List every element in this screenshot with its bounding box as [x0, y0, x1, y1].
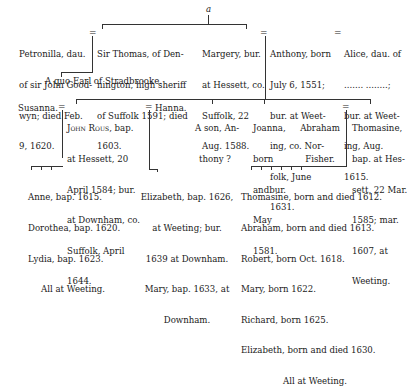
- marriage-sign: =: [260, 28, 268, 38]
- connector-line: [76, 99, 371, 100]
- child-entry: Robert, born Oct. 1618.: [241, 254, 382, 264]
- child-entry: Mary, born 1622.: [241, 284, 382, 294]
- children-note: All at Weeting.: [28, 284, 120, 294]
- child-entry: Dorothea, bap. 1620.: [28, 223, 120, 233]
- text-line: Sir Thomas, of Den-: [97, 49, 188, 59]
- text-line: thony ?: [195, 154, 235, 164]
- lineage-marker: a: [206, 4, 211, 14]
- connector-line: [346, 110, 347, 166]
- connector-line: [31, 166, 32, 170]
- child-entry: at Weeting; bur.: [130, 223, 244, 233]
- child-entry: Richard, born 1625.: [241, 315, 382, 325]
- text-line: A son, An-: [195, 123, 235, 133]
- person-son-anthony: A son, An- thony ?: [195, 103, 235, 174]
- text-line: born: [253, 154, 286, 164]
- connector-line: [208, 15, 209, 24]
- person-name: John Rous: [67, 123, 109, 133]
- child-entry: Anne, bap. 1615.: [28, 192, 120, 202]
- child-entry: 1639 at Downham.: [130, 254, 244, 264]
- connector-line: [61, 72, 93, 73]
- connector-line: [251, 166, 252, 170]
- children-note: All at Weeting.: [241, 376, 382, 386]
- child-entry: Thomasine, born and died 1612.: [241, 192, 382, 202]
- connector-line: [271, 166, 272, 170]
- person-hanna: Hanna.: [155, 103, 187, 113]
- connector-line: [291, 166, 292, 170]
- text-line: July 6, 1551;: [270, 80, 331, 90]
- child-entry: Elizabeth, born and died 1630.: [241, 345, 382, 355]
- connector-line: [41, 166, 42, 170]
- text-line: ....... ........;: [344, 80, 401, 90]
- child-entry: Downham.: [130, 315, 244, 325]
- connector-line: [102, 24, 247, 25]
- connector-line: [149, 110, 150, 170]
- connector-line: [51, 166, 52, 170]
- text-line: Petronilla, dau.: [19, 49, 92, 59]
- text-line: at Hessett, 20: [67, 154, 140, 164]
- text-line: Abraham: [299, 123, 341, 133]
- text-line: Margery, bur.: [202, 49, 265, 59]
- children-of-hanna: Elizabeth, bap. 1626, at Weeting; bur. 1…: [130, 172, 244, 335]
- text-fragment: , bap.: [109, 123, 133, 133]
- text-line: at Hessett, co.: [202, 80, 265, 90]
- text-line: Thomasine,: [352, 123, 407, 133]
- person-susanna: Susanna.: [18, 103, 58, 113]
- connector-line: [251, 166, 347, 167]
- marriage-sign: =: [334, 28, 342, 38]
- text-line: Anthony, born: [270, 49, 331, 59]
- connector-line: [301, 166, 302, 170]
- text-line: Alice, dau. of: [344, 49, 401, 59]
- text-line: Fisher.: [299, 154, 341, 164]
- connector-line: [261, 166, 262, 170]
- text-line: Joanna,: [253, 123, 286, 133]
- child-entry: Mary, bap. 1633, at: [130, 284, 244, 294]
- text-line: bap. at Hes-: [352, 154, 407, 164]
- stradbroke-note: A quo Earl of Stradbrooke.: [45, 76, 162, 86]
- connector-line: [92, 36, 93, 72]
- connector-line: [62, 110, 63, 158]
- child-entry: Abraham, born and died 1613.: [241, 223, 382, 233]
- person-abraham-fisher: Abraham Fisher.: [299, 103, 341, 174]
- children-of-susanna: Anne, bap. 1615. Dorothea, bap. 1620. Ly…: [28, 172, 120, 305]
- text-line: John Rous, bap.: [67, 123, 140, 133]
- children-of-thomasine: Thomasine, born and died 1612. Abraham, …: [241, 172, 382, 390]
- connector-line: [149, 169, 157, 170]
- connector-line: [265, 36, 266, 99]
- connector-line: [31, 166, 63, 167]
- child-entry: Elizabeth, bap. 1626,: [130, 192, 244, 202]
- child-entry: Lydia, bap. 1623.: [28, 254, 120, 264]
- connector-line: [281, 166, 282, 170]
